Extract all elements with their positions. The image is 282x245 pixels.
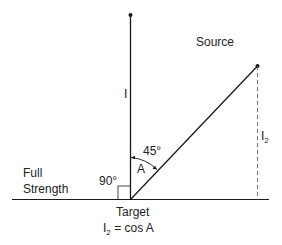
formula-subscript: 2 bbox=[106, 228, 110, 237]
intensity-label: I bbox=[124, 88, 127, 101]
top-source-point bbox=[129, 13, 133, 17]
angled-ray bbox=[131, 66, 258, 200]
angle-value-label: 45° bbox=[143, 145, 161, 158]
projected-intensity-label: I2 bbox=[261, 130, 269, 144]
source-label: Source bbox=[196, 36, 234, 49]
full-strength-label-line1: Full bbox=[23, 167, 42, 180]
right-angle-label: 90° bbox=[99, 175, 117, 188]
formula-label: I2 = cos A bbox=[103, 222, 154, 236]
projected-intensity-subscript: 2 bbox=[264, 136, 268, 145]
full-strength-label-line2: Strength bbox=[23, 183, 68, 196]
target-label: Target bbox=[116, 206, 149, 219]
angle-name-label: A bbox=[137, 163, 145, 176]
arc-arrowhead-left bbox=[131, 156, 135, 160]
formula-rest: = cos A bbox=[111, 221, 154, 235]
right-angle-marker bbox=[118, 186, 131, 200]
